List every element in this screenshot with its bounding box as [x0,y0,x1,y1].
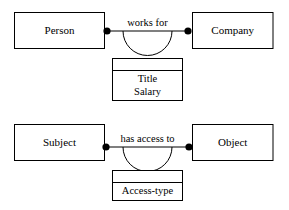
association-arc-works-for [123,31,172,55]
entity-label-subject: Subject [43,136,76,148]
relationship-label-works-for: works for [127,17,168,28]
relationship-group-has-access-to: Subject Object has access to Access-type [15,125,274,201]
connector-dot-company [184,27,191,34]
entity-label-person: Person [45,24,75,36]
relationship-label-has-access-to: has access to [120,133,174,144]
entity-label-company: Company [211,24,254,36]
entity-label-object: Object [218,136,247,148]
connector-dot-person [103,27,110,34]
connector-dot-subject [102,143,109,150]
diagram-canvas: Person Company works for Title Salary Su [0,0,289,210]
association-arc-has-access-to [123,147,172,172]
connector-dot-object [185,143,192,150]
relationship-group-works-for: Person Company works for Title Salary [15,13,274,101]
attribute-item-salary: Salary [134,86,162,97]
attribute-item-title: Title [138,73,158,84]
attribute-item-access-type: Access-type [122,185,174,196]
